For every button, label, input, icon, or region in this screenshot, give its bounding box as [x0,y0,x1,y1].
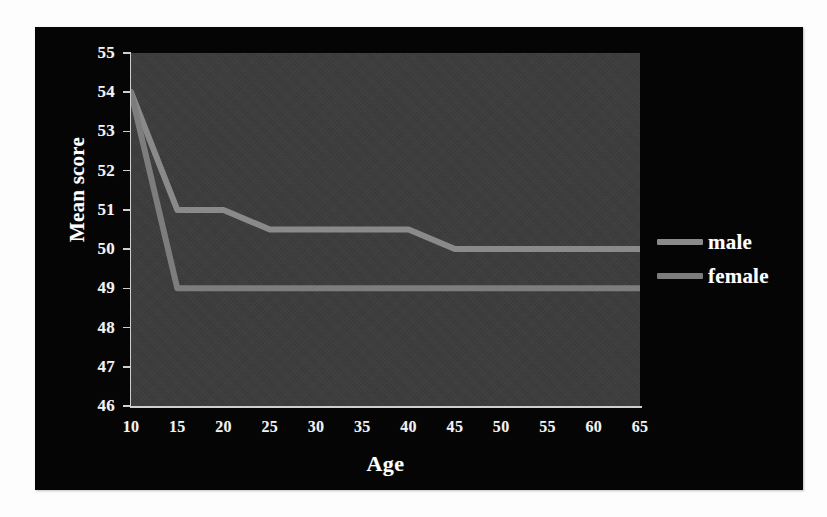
data-series-svg [131,53,640,406]
y-tick-label: 48 [85,319,115,336]
y-tick-mark [123,170,131,172]
x-tick-label: 10 [114,419,148,435]
legend-swatch-icon [657,273,703,279]
legend-swatch-icon [657,239,703,245]
y-tick-label: 53 [85,122,115,139]
x-axis-line [130,406,642,408]
y-tick-label: 49 [85,279,115,296]
legend-label-male: male [708,230,752,255]
x-tick-label: 30 [299,419,333,435]
x-axis-title: Age [131,451,640,477]
y-tick-mark [123,91,131,93]
plot-area [131,53,640,406]
x-tick-label: 20 [207,419,241,435]
y-tick-mark [123,366,131,368]
x-tick-label: 55 [530,419,564,435]
y-tick-mark [123,52,131,54]
x-tick-label: 60 [577,419,611,435]
y-tick-mark [123,405,131,407]
y-tick-mark [123,131,131,133]
y-tick-label: 50 [85,240,115,257]
y-tick-label: 52 [85,162,115,179]
x-tick-label: 15 [160,419,194,435]
x-tick-label: 65 [623,419,657,435]
legend-item-male: male [657,225,797,259]
x-tick-label: 40 [392,419,426,435]
y-tick-label: 54 [85,83,115,100]
x-tick-label: 50 [484,419,518,435]
chart-legend: male female [657,225,797,293]
y-tick-label: 46 [85,397,115,414]
x-tick-label: 45 [438,419,472,435]
legend-label-female: female [708,264,769,289]
y-tick-label: 51 [85,201,115,218]
legend-item-female: female [657,259,797,293]
y-tick-label: 55 [85,44,115,61]
series-line-male [131,92,640,249]
chart-panel: Mean score 55545352515049484746 10152025… [35,27,803,490]
y-tick-label: 47 [85,358,115,375]
y-tick-mark [123,327,131,329]
series-line-female [131,92,640,288]
y-tick-mark [123,209,131,211]
x-tick-label: 35 [345,419,379,435]
chart-image: Mean score 55545352515049484746 10152025… [0,0,827,517]
x-tick-label: 25 [253,419,287,435]
y-tick-mark [123,288,131,290]
y-tick-mark [123,248,131,250]
